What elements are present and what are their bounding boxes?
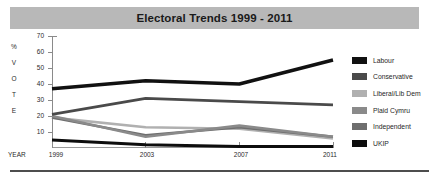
legend-item-ukip[interactable]: UKIP	[352, 135, 438, 152]
y-axis-title-char: E	[12, 108, 16, 115]
legend-item-label: Plaid Cymru	[373, 107, 410, 114]
y-tick-label: 30	[28, 97, 44, 104]
y-tick-label: 70	[28, 33, 44, 40]
legend-item-label: Independent	[373, 123, 411, 130]
legend-item-liberal-lib-dem[interactable]: Liberal/Lib Dem	[352, 85, 438, 102]
y-axis-title: % V O T E	[8, 44, 20, 124]
series-line-conservative	[52, 98, 333, 114]
legend-swatch-icon	[352, 123, 367, 130]
legend-item-label: UKIP	[373, 140, 389, 147]
x-tick	[333, 142, 334, 148]
legend-swatch-icon	[352, 107, 367, 114]
plot-region	[52, 36, 333, 148]
series-line-labour	[52, 60, 333, 89]
series-line-liberal-lib-dem	[52, 118, 333, 139]
legend-item-conservative[interactable]: Conservative	[352, 69, 438, 86]
series-line-ukip	[52, 140, 333, 146]
x-tick-label: 1999	[49, 151, 63, 158]
y-axis-title-char: %	[11, 44, 17, 51]
x-tick-label: 2003	[140, 151, 154, 158]
legend-item-labour[interactable]: Labour	[352, 52, 438, 69]
y-tick-label: 40	[28, 81, 44, 88]
x-tick-label: 2011	[323, 151, 337, 158]
legend-swatch-icon	[352, 57, 367, 64]
legend-item-label: Labour	[373, 57, 394, 64]
y-tick-label: 50	[28, 65, 44, 72]
legend-swatch-icon	[352, 90, 367, 97]
footer-divider	[10, 170, 429, 172]
page-title: Electoral Trends 1999 - 2011	[10, 7, 419, 29]
legend-item-independent[interactable]: Independent	[352, 118, 438, 135]
legend-item-label: Conservative	[373, 73, 413, 80]
legend-swatch-icon	[352, 140, 367, 147]
y-axis-title-char: V	[12, 60, 16, 67]
legend-swatch-icon	[352, 73, 367, 80]
x-tick-label: 2007	[234, 151, 248, 158]
legend: Labour Conservative Liberal/Lib Dem Plai…	[352, 52, 438, 152]
y-tick-label: 60	[28, 49, 44, 56]
y-tick-label: 10	[28, 129, 44, 136]
y-axis-title-char: O	[11, 76, 16, 83]
series-lines	[52, 36, 333, 148]
y-tick-label: 20	[28, 113, 44, 120]
legend-item-label: Liberal/Lib Dem	[373, 90, 421, 97]
y-axis-title-char: T	[12, 92, 16, 99]
x-axis-title: YEAR	[8, 151, 26, 158]
legend-item-plaid-cymru[interactable]: Plaid Cymru	[352, 102, 438, 119]
title-banner: Electoral Trends 1999 - 2011	[10, 7, 419, 29]
